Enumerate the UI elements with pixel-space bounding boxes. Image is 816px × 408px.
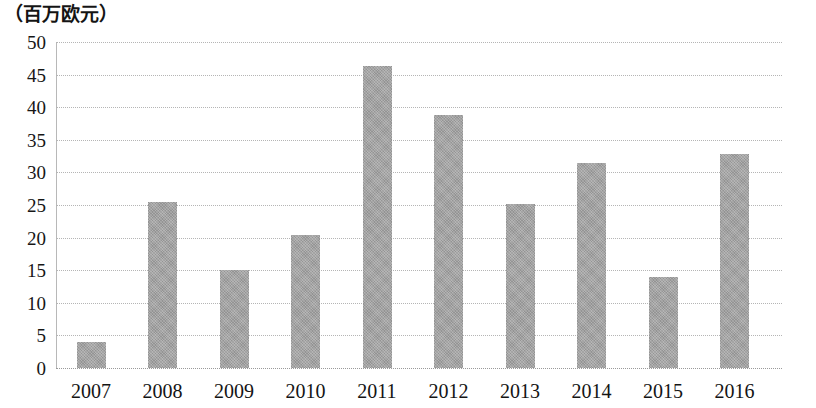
x-axis-tick-label: 2013 [484,378,556,404]
y-axis-tick-label: 15 [0,261,46,280]
gridline [56,42,782,43]
bar [148,202,177,368]
y-axis-unit-label: （百万欧元） [4,2,118,26]
gridline [56,172,782,173]
bar [649,277,678,368]
y-axis-tick-label: 35 [0,130,46,149]
gridline [56,107,782,108]
plot-area [56,42,782,368]
x-axis-tick-label: 2016 [699,378,771,404]
x-axis-tick-label: 2009 [198,378,270,404]
bar [720,154,749,368]
bar [506,204,535,368]
bar [363,66,392,368]
y-axis-tick-label: 5 [0,326,46,345]
gridline [56,368,782,369]
y-axis-tick-label: 10 [0,293,46,312]
gridline [56,75,782,76]
x-axis-tick-label: 2012 [413,378,485,404]
gridline [56,140,782,141]
bar [220,270,249,368]
x-axis-tick-label: 2008 [127,378,199,404]
bar-chart: （百万欧元） 05101520253035404550 （年） 20072008… [0,0,816,408]
y-axis-tick-label: 0 [0,359,46,378]
x-axis-tick-label: 2014 [556,378,628,404]
x-axis-tick-label: 2010 [270,378,342,404]
x-axis-tick-label: 2015 [627,378,699,404]
x-axis-tick-labels: （年） 200720082009201020112012201320142015… [56,378,816,408]
x-axis-tick-label: 2011 [341,378,413,404]
x-axis-tick-label: 2007 [55,378,127,404]
y-axis-tick-label: 25 [0,196,46,215]
bar [291,235,320,368]
y-axis-tick-label: 50 [0,33,46,52]
bar [434,115,463,368]
y-axis-tick-label: 30 [0,163,46,182]
y-axis-tick-labels: 05101520253035404550 [0,42,46,368]
y-axis-tick-label: 20 [0,228,46,247]
bar [577,163,606,368]
y-axis-tick-label: 45 [0,65,46,84]
y-axis-tick-label: 40 [0,98,46,117]
bar [77,342,106,368]
